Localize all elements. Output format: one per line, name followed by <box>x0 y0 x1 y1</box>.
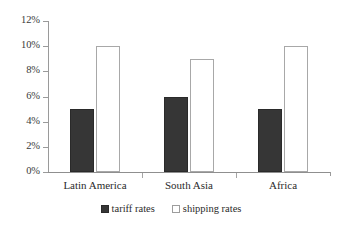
legend-label: shipping rates <box>183 203 242 214</box>
x-axis-end-tick <box>330 172 331 176</box>
category-separator-tick <box>236 173 237 178</box>
category-label-south-asia: South Asia <box>142 179 236 192</box>
legend-item-tariff[interactable]: tariff rates <box>101 203 155 214</box>
y-axis-tick-label: 10% <box>0 40 40 50</box>
y-axis-tick-label: 4% <box>0 116 40 126</box>
y-axis-tick-label: 8% <box>0 65 40 75</box>
category-label-africa: Africa <box>236 179 330 192</box>
legend-label: tariff rates <box>112 203 155 214</box>
x-axis-line <box>48 172 331 173</box>
bar-africa-tariff <box>258 109 282 172</box>
y-axis-tick <box>43 172 48 173</box>
chart-legend: tariff ratesshipping rates <box>0 203 342 214</box>
legend-item-shipping[interactable]: shipping rates <box>172 203 242 214</box>
outlined-square-icon <box>172 205 180 213</box>
bar-africa-shipping <box>284 46 308 172</box>
bar-latin-america-shipping <box>96 46 120 172</box>
filled-square-icon <box>101 205 109 213</box>
bar-south-asia-tariff <box>164 97 188 173</box>
bar-latin-america-tariff <box>70 109 94 172</box>
bar-chart: 0%2%4%6%8%10%12% Latin AmericaSouth Asia… <box>0 0 342 233</box>
bar-south-asia-shipping <box>190 59 214 172</box>
y-axis-tick-label: 0% <box>0 166 40 176</box>
category-label-latin-america: Latin America <box>48 179 142 192</box>
y-axis-tick-label: 12% <box>0 15 40 25</box>
y-axis-tick-label: 2% <box>0 141 40 151</box>
y-axis-tick-label: 6% <box>0 91 40 101</box>
plot-area <box>48 21 330 172</box>
category-separator-tick <box>142 173 143 178</box>
